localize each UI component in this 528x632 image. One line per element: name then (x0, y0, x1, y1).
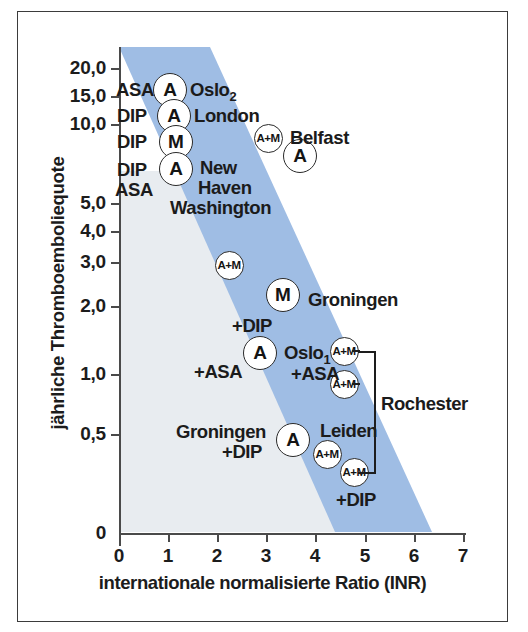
y-tick-1 (111, 374, 119, 376)
y-tick-label-20: 20,0 (18, 57, 106, 79)
y-tick-3 (111, 262, 119, 264)
figure-frame: 20,0 15,0 10,0 5,0 4,0 3,0 2,0 1,0 0,5 0… (17, 11, 508, 622)
x-tick-label-7: 7 (445, 545, 481, 567)
marker-groningen-am[interactable]: A+M (215, 251, 244, 280)
marker-leiden-a[interactable]: A (276, 423, 310, 457)
rochester-bracket-tick-mid (352, 383, 360, 385)
marker-oslo1[interactable]: A (243, 336, 277, 370)
annotation-plus-dip-2: +DIP (222, 442, 262, 461)
y-tick-2 (111, 306, 119, 308)
x-axis-title: internationale normalisierte Ratio (INR) (18, 572, 507, 594)
rochester-bracket-tick-top (352, 350, 360, 352)
annotation-oslo2-text: Oslo (190, 79, 230, 100)
annotation-haven: Haven (198, 178, 252, 197)
annotation-belfast: Belfast (290, 128, 349, 147)
y-tick-4 (111, 231, 119, 233)
annotation-oslo2-subscript: 2 (230, 89, 237, 104)
x-tick-1 (168, 534, 170, 542)
annotation-asa-oslo2: ASA (116, 80, 154, 99)
annotation-london: London (194, 106, 259, 125)
x-tick-label-0: 0 (101, 545, 137, 567)
annotation-dip-washington: DIP (117, 160, 147, 179)
annotation-new: New (200, 158, 237, 177)
annotation-plus-dip-3: +DIP (336, 490, 376, 509)
x-tick-0 (119, 534, 121, 542)
x-tick-7 (463, 534, 465, 542)
y-axis-title: jährliche Thromboemboliequote (47, 93, 69, 493)
x-tick-3 (266, 534, 268, 542)
annotation-washington: Washington (170, 198, 271, 217)
marker-washington[interactable]: A (159, 152, 193, 186)
x-tick-label-4: 4 (297, 545, 333, 567)
x-tick-5 (365, 534, 367, 542)
x-tick-label-6: 6 (396, 545, 432, 567)
annotation-dip-london: DIP (117, 106, 147, 125)
marker-groningen-m[interactable]: M (266, 278, 300, 312)
annotation-groningen-1: Groningen (308, 290, 398, 309)
figure-root: 20,0 15,0 10,0 5,0 4,0 3,0 2,0 1,0 0,5 0… (0, 0, 528, 632)
marker-belfast-am[interactable]: A+M (254, 124, 283, 153)
annotation-plus-asa-2: +ASA (291, 364, 339, 383)
x-tick-label-3: 3 (248, 545, 284, 567)
x-tick-label-2: 2 (199, 545, 235, 567)
y-tick-20 (111, 68, 119, 70)
x-tick-2 (217, 534, 219, 542)
x-tick-label-5: 5 (347, 545, 383, 567)
annotation-rochester: Rochester (381, 394, 468, 413)
marker-leiden-am[interactable]: A+M (313, 440, 342, 469)
y-tick-05 (111, 434, 119, 436)
annotation-groningen-2: Groningen (176, 422, 266, 441)
y-tick-label-0: 0 (18, 522, 106, 544)
annotation-plus-asa-1: +ASA (194, 362, 242, 381)
rochester-bracket (358, 351, 376, 474)
annotation-oslo1-text: Oslo (284, 342, 324, 363)
annotation-asa-washington: ASA (115, 180, 153, 199)
x-tick-6 (414, 534, 416, 542)
annotation-plus-dip-1: +DIP (232, 316, 272, 335)
annotation-dip-newhaven: DIP (117, 132, 147, 151)
y-tick-5 (111, 203, 119, 205)
x-tick-label-1: 1 (150, 545, 186, 567)
annotation-oslo2: Oslo2 (190, 80, 236, 103)
x-tick-4 (315, 534, 317, 542)
